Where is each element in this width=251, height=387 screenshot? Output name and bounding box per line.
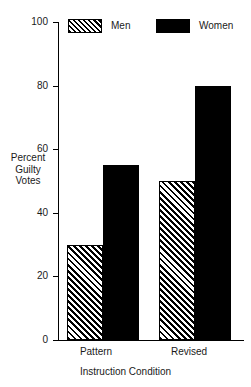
x-category-label-pattern: Pattern (61, 346, 131, 358)
x-axis-title: Instruction Condition (0, 366, 251, 378)
y-axis-title-line-1: Percent (6, 152, 50, 164)
y-tick-text-100: 100 (22, 17, 48, 27)
x-category-label-revised: Revised (154, 346, 224, 358)
plot-area (58, 22, 243, 340)
x-axis-line (58, 340, 244, 341)
y-axis-title: Percent Guilty Votes (6, 152, 50, 187)
y-tick-text-40: 40 (22, 208, 48, 218)
y-tick-0 (53, 340, 58, 341)
y-tick-text-20: 20 (22, 271, 48, 281)
y-axis-title-line-3: Votes (6, 175, 50, 187)
y-tick-text-80: 80 (22, 81, 48, 91)
bar-chart-figure: Men Women 0 20 40 60 80 100 Per (0, 0, 251, 387)
bar-pattern-women (103, 165, 139, 340)
y-tick-text-0: 0 (22, 335, 48, 345)
bar-revised-women (195, 86, 231, 340)
bar-revised-men (159, 181, 195, 340)
y-axis-title-line-2: Guilty (6, 164, 50, 176)
bar-pattern-men (67, 245, 103, 340)
